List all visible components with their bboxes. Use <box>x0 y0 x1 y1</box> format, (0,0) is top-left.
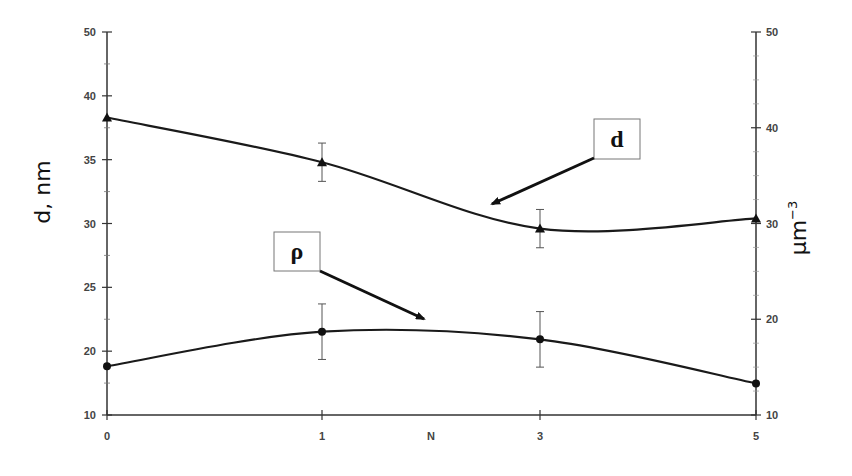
series-rho <box>103 304 760 387</box>
circle-marker <box>536 335 544 343</box>
left-tick-label: 20 <box>84 345 96 357</box>
x-axis-title: N <box>427 430 435 442</box>
callout-d: d <box>492 119 640 204</box>
right-axis-title: μm−3 <box>785 201 811 256</box>
right-tick-label: 10 <box>766 409 778 421</box>
right-tick-label: 40 <box>766 122 778 134</box>
triangle-marker <box>102 113 112 122</box>
left-tick-label: 25 <box>84 281 96 293</box>
callout-d-label: d <box>610 126 624 152</box>
left-axis-title: d, nm <box>30 160 55 223</box>
x-tick-label: 1 <box>319 430 325 442</box>
right-tick-label: 30 <box>766 218 778 230</box>
left-tick-label: 30 <box>84 218 96 230</box>
left-tick-label: 10 <box>84 409 96 421</box>
rho-curve <box>107 330 756 384</box>
rho-markers <box>103 328 760 388</box>
callout-rho: ρ <box>274 232 424 319</box>
right-tick-label: 20 <box>766 313 778 325</box>
circle-marker <box>752 379 760 387</box>
callout-rho-arrow <box>320 271 424 319</box>
right-axis-title-sup: −3 <box>785 201 800 220</box>
right-axis-title-base: μm <box>786 220 811 255</box>
right-tick-label: 50 <box>766 26 778 38</box>
x-tick-label: 3 <box>537 430 543 442</box>
left-tick-label: 50 <box>84 26 96 38</box>
line-chart: 50403530252010 5040302010 0135 d, nm μm−… <box>0 0 852 476</box>
series-d <box>102 113 761 248</box>
callout-rho-label: ρ <box>291 238 304 264</box>
left-tick-label: 40 <box>84 90 96 102</box>
callout-d-arrow <box>492 158 594 204</box>
x-tick-label: 0 <box>104 430 110 442</box>
left-tick-label: 35 <box>84 154 96 166</box>
circle-marker <box>103 362 111 370</box>
d-curve <box>107 118 756 232</box>
circle-marker <box>318 328 326 336</box>
x-tick-label: 5 <box>753 430 759 442</box>
axes <box>107 32 756 415</box>
d-markers <box>102 113 761 233</box>
left-axis-ticks: 50403530252010 <box>84 26 112 421</box>
right-axis-ticks: 5040302010 <box>751 26 778 421</box>
